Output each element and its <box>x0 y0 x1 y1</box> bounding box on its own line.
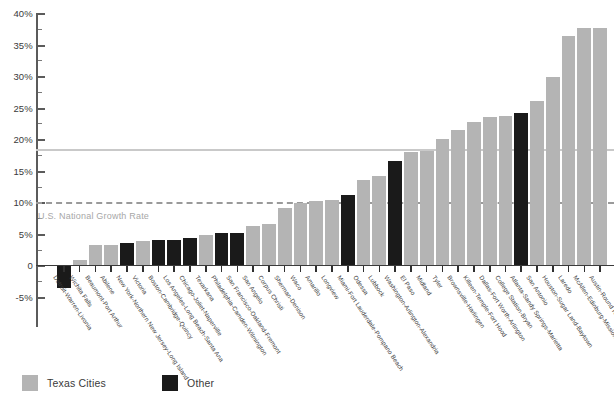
chart-legend: Texas Cities Other <box>22 375 214 391</box>
bar[interactable] <box>278 208 292 265</box>
bar[interactable] <box>89 245 103 265</box>
bar[interactable] <box>136 241 150 266</box>
bar-slot: Austin-Round Rock <box>592 8 608 330</box>
x-tick-mark <box>205 265 207 272</box>
bar[interactable] <box>404 152 418 266</box>
bar[interactable] <box>341 195 355 265</box>
x-tick-mark <box>95 265 97 272</box>
bar[interactable] <box>199 235 213 266</box>
x-tick-mark <box>158 265 160 272</box>
legend-label-texas-cities: Texas Cities <box>47 377 106 389</box>
x-tick-mark <box>268 265 270 272</box>
x-axis-label: Austin-Round Rock <box>588 274 614 324</box>
x-tick-mark <box>63 265 65 272</box>
bar[interactable] <box>230 233 244 266</box>
x-tick-mark <box>457 265 459 272</box>
bar[interactable] <box>436 139 450 266</box>
bar-slot: Houston-Sugar Land-Baytown <box>545 8 561 330</box>
bar[interactable] <box>215 233 229 265</box>
bar-slot: El Paso <box>403 8 419 330</box>
bar[interactable] <box>420 151 434 266</box>
bar[interactable] <box>562 36 576 265</box>
x-tick-mark <box>410 265 412 272</box>
bar[interactable] <box>357 180 371 265</box>
bar[interactable] <box>246 226 260 265</box>
bar[interactable] <box>499 116 513 266</box>
x-tick-mark <box>584 265 586 272</box>
y-tick-label: 5% <box>19 228 33 239</box>
x-tick-mark <box>599 265 601 272</box>
x-tick-mark <box>552 265 554 272</box>
x-tick-mark <box>110 265 112 272</box>
x-tick-mark <box>363 265 365 272</box>
bar[interactable] <box>309 201 323 265</box>
bar[interactable] <box>483 117 497 265</box>
bar[interactable] <box>530 101 544 266</box>
y-tick-label: 10% <box>13 197 33 208</box>
bar-slot: Chicago-Joliet-Naperville <box>182 8 198 330</box>
x-tick-mark <box>284 265 286 272</box>
bar-slot: New York-Northern New Jersey-Long Island <box>119 8 135 330</box>
x-tick-mark <box>315 265 317 272</box>
bar[interactable] <box>262 224 276 266</box>
bar[interactable] <box>577 28 591 265</box>
bar[interactable] <box>451 130 465 265</box>
bar[interactable] <box>467 122 481 266</box>
y-tick-label: 0 <box>28 260 33 271</box>
x-tick-mark <box>536 265 538 272</box>
bar[interactable] <box>183 238 197 265</box>
bar-slot: Killeen-Temple-Fort Hood <box>466 8 482 330</box>
bar[interactable] <box>514 113 528 266</box>
y-tick-label: 30% <box>13 71 33 82</box>
x-tick-mark <box>173 265 175 272</box>
plot-area: 40%35%30%25%20%15%10%5%0-5% U.S. Nationa… <box>36 8 614 330</box>
bar-slot: Brownsville-Harlingen <box>450 8 466 330</box>
bar[interactable] <box>593 28 607 265</box>
y-tick-label: 40% <box>13 8 33 19</box>
x-tick-mark <box>126 265 128 272</box>
legend-label-other: Other <box>187 377 214 389</box>
bar-slot: San Antonio <box>529 8 545 330</box>
bar-slot: San Angelo <box>245 8 261 330</box>
bar[interactable] <box>388 161 402 266</box>
bar-slot: Corpus Christi <box>261 8 277 330</box>
bar-slot: Wichita Falls <box>72 8 88 330</box>
legend-swatch-texas-cities <box>22 375 38 391</box>
x-tick-mark <box>252 265 254 272</box>
bar[interactable] <box>325 200 339 265</box>
x-tick-mark <box>331 265 333 272</box>
bar[interactable] <box>120 243 134 265</box>
x-tick-mark <box>505 265 507 272</box>
x-tick-mark <box>300 265 302 272</box>
bar-slot: Dallas-Fort Worth-Arlington <box>482 8 498 330</box>
bar-slot: Sherman-Denison <box>277 8 293 330</box>
x-tick-mark <box>79 265 81 272</box>
bar-slot: Texarkana <box>198 8 214 330</box>
legend-swatch-other <box>162 375 178 391</box>
bar-slot: Victoria <box>135 8 151 330</box>
legend-item-texas-cities: Texas Cities <box>22 375 106 391</box>
bar[interactable] <box>294 203 308 265</box>
growth-rate-bar-chart: 40%35%30%25%20%15%10%5%0-5% U.S. Nationa… <box>0 0 614 408</box>
bar[interactable] <box>167 240 181 266</box>
x-tick-mark <box>189 265 191 272</box>
bar[interactable] <box>372 176 386 266</box>
x-tick-mark <box>142 265 144 272</box>
bar-slot: Midland <box>419 8 435 330</box>
bar[interactable] <box>104 245 118 266</box>
x-tick-mark <box>347 265 349 272</box>
y-tick-label: 15% <box>13 165 33 176</box>
x-tick-mark <box>426 265 428 272</box>
bar-slot: Detroit-Warren-Livonia <box>56 8 72 330</box>
bar[interactable] <box>152 240 166 265</box>
x-tick-mark <box>394 265 396 272</box>
x-tick-mark <box>442 265 444 272</box>
bar-slot: Longview <box>324 8 340 330</box>
bar[interactable] <box>546 77 560 265</box>
bar-slot: Miami-Fort Lauderdale-Pompano Beach <box>340 8 356 330</box>
x-tick-mark <box>489 265 491 272</box>
bar-slot: Abilene <box>103 8 119 330</box>
y-tick-label: -5% <box>16 292 34 303</box>
x-tick-mark <box>221 265 223 272</box>
x-tick-mark <box>379 265 381 272</box>
